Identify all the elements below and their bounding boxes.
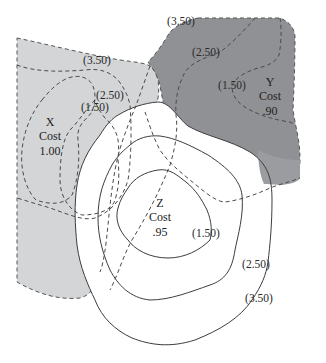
x-label-1-50: (1.50): [81, 102, 109, 114]
y-label-1-50: (1.50): [218, 80, 246, 92]
site-z-cost-label: Cost: [149, 210, 171, 224]
z-label-2-50: (2.50): [242, 259, 270, 271]
contour-diagram: [0, 0, 326, 363]
site-x-cost-label: Cost: [39, 129, 61, 143]
isocost-map: (3.50) (2.50) (1.50) (3.50) (2.50) (1.50…: [0, 0, 326, 363]
y-label-3-50: (3.50): [167, 16, 195, 28]
z-label-3-50: (3.50): [245, 293, 273, 305]
y-label-2-50: (2.50): [192, 47, 220, 59]
site-y-cost-label: Cost: [259, 89, 281, 103]
site-z: Z Cost .95: [149, 196, 171, 239]
site-y-cost: .90: [259, 104, 281, 118]
x-label-3-50: (3.50): [83, 55, 111, 67]
site-z-cost: .95: [149, 225, 171, 239]
z-label-1-50: (1.50): [192, 228, 220, 240]
x-label-2-50: (2.50): [96, 90, 124, 102]
site-x-cost: 1.00: [39, 144, 61, 158]
site-z-name: Z: [149, 196, 171, 210]
site-x-name: X: [39, 115, 61, 129]
site-y-name: Y: [259, 75, 281, 89]
site-x: X Cost 1.00: [39, 115, 61, 158]
site-y: Y Cost .90: [259, 75, 281, 118]
